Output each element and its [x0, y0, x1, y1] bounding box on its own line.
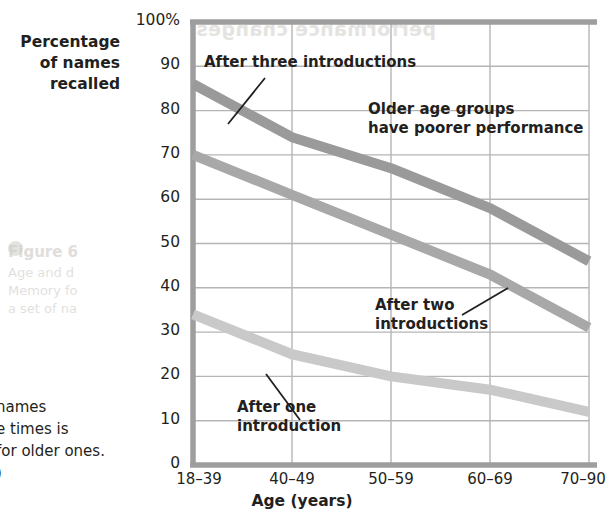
x-tick-label: 70–90 — [552, 470, 610, 488]
annotation-after-three-introductions: After three introductions — [204, 53, 416, 72]
annotation-after-two-line-1: After two — [375, 296, 488, 315]
annotation-older-age-groups: Older age groups have poorer performance — [368, 100, 584, 138]
annotation-after-one-introduction: After one introduction — [237, 398, 341, 436]
annotation-older-line-1: Older age groups — [368, 100, 584, 119]
caption-line-3: for older ones. — [0, 442, 105, 460]
annotation-after-two-line-2: introductions — [375, 315, 488, 334]
caption-line-2: e times is — [0, 420, 68, 438]
x-axis-title: Age (years) — [0, 492, 604, 510]
annotation-after-one-line-1: After one — [237, 398, 341, 417]
annotation-older-line-2: have poorer performance — [368, 119, 584, 138]
x-tick-label: 60–69 — [459, 470, 521, 488]
annotation-after-three-text: After three introductions — [204, 53, 416, 72]
caption-line-1: names — [0, 398, 46, 416]
x-tick-label: 50–59 — [360, 470, 422, 488]
annotation-after-one-line-2: introduction — [237, 417, 341, 436]
caption-line-4: ) — [0, 464, 2, 482]
x-tick-label: 18–39 — [168, 470, 230, 488]
x-tick-label: 40–49 — [261, 470, 323, 488]
annotation-after-two-introductions: After two introductions — [375, 296, 488, 334]
